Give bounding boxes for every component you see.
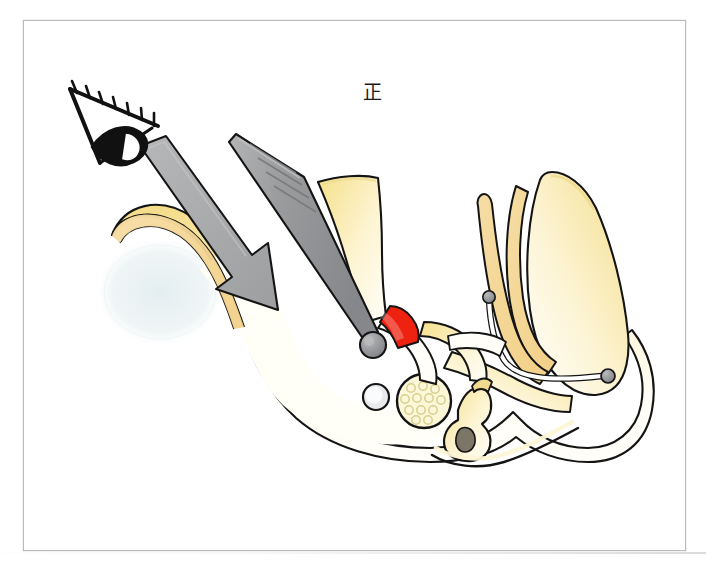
eye-symbol	[70, 81, 158, 165]
view-label: 正	[363, 83, 382, 102]
probe-ball-proximal	[483, 291, 495, 303]
condyle-circle	[363, 384, 389, 410]
probe-ball-distal	[601, 369, 615, 383]
instrument-pivot	[360, 332, 386, 358]
figure-root: 正	[0, 0, 706, 573]
scan-artifact-line	[0, 552, 706, 554]
illustration-canvas	[0, 0, 706, 573]
alveolar-process	[444, 379, 492, 462]
